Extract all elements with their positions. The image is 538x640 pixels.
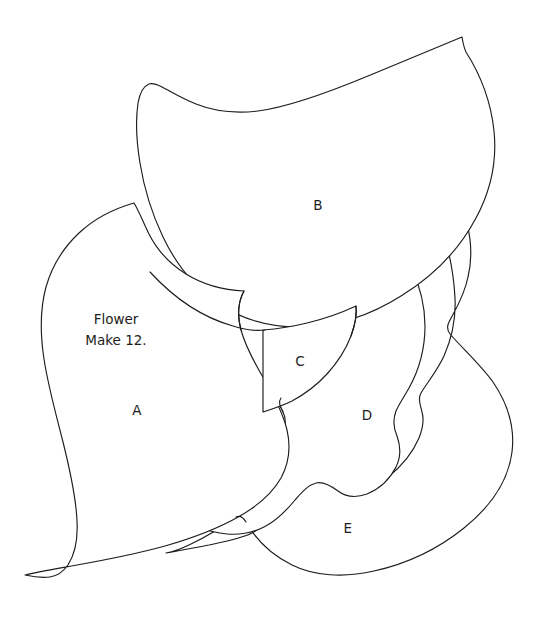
- pattern-note-line-2: Make 12.: [85, 332, 146, 348]
- pattern-sheet: Flower Make 12. A B C D E: [0, 0, 538, 640]
- petal-label-d: D: [362, 407, 373, 423]
- petal-label-a: A: [132, 402, 142, 418]
- petal-label-b: B: [313, 197, 323, 213]
- pattern-note-line-1: Flower: [94, 311, 139, 327]
- petal-label-e: E: [344, 520, 353, 536]
- flower-pattern-drawing: Flower Make 12. A B C D E: [0, 0, 538, 640]
- petal-label-c: C: [295, 353, 305, 369]
